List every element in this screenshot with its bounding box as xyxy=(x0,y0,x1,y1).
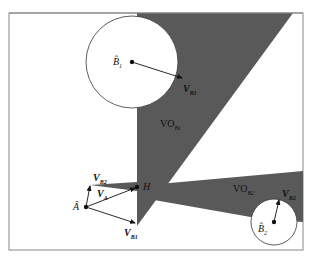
point-h-label: H xyxy=(142,181,151,192)
velocity-obstacle-diagram: B̂1 VB1 VOB1 VOB2 VB2 B̂2 H Â VB2 VA VB1 xyxy=(0,0,313,260)
point-h-dot xyxy=(135,185,139,189)
agent-a-label: Â xyxy=(72,201,80,212)
